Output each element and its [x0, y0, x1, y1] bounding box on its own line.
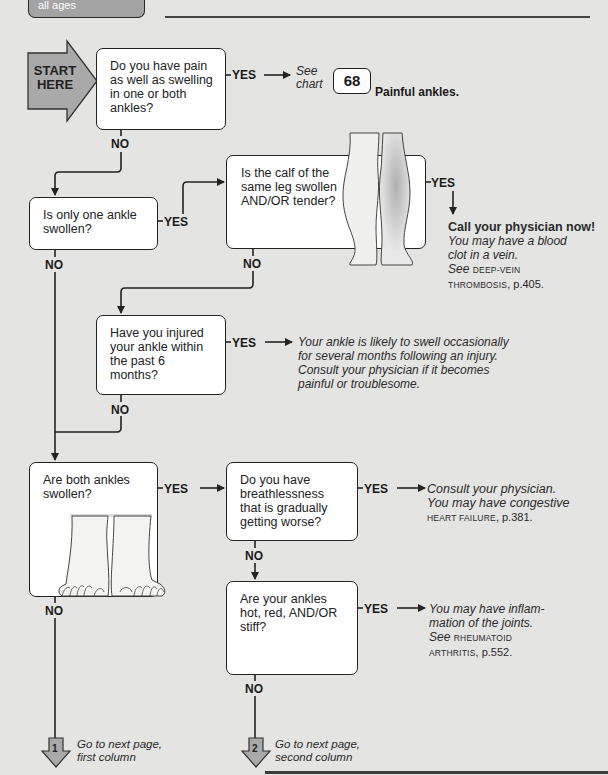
start-label-line1: START [31, 64, 79, 78]
start-label-line2: HERE [31, 78, 79, 92]
yes-label: YES [164, 482, 188, 496]
feet-illustration [56, 514, 168, 610]
no-label: NO [111, 137, 129, 151]
outcome-line: You may have a blood [448, 234, 608, 248]
chart-title-painful-ankles[interactable]: Painful ankles. [375, 85, 459, 99]
outcome-line: mation of the joints. [429, 616, 599, 630]
no-label: NO [45, 258, 63, 272]
outcome-line: clot in a vein. [448, 248, 608, 262]
question-box-pain-and-swelling[interactable]: Do you have pain as well as swelling in … [96, 48, 226, 130]
yes-label: YES [364, 602, 388, 616]
continue-2-link[interactable]: 2 [243, 737, 269, 769]
yes-label: YES [164, 215, 188, 229]
question-text: Have you injured your ankle within the p… [110, 326, 204, 382]
continuation-line: Go to next page, [275, 738, 360, 751]
continuation-1-text: Go to next page, first column [77, 738, 162, 764]
continuation-number: 2 [252, 743, 258, 754]
legs-calf-illustration [340, 133, 415, 268]
question-box-injured-ankle[interactable]: Have you injured your ankle within the p… [96, 315, 226, 395]
outcome-blood-clot: Call your physician now! You may have a … [448, 220, 608, 292]
page-ref: , p.552. [476, 646, 513, 658]
see-label: See [448, 262, 469, 276]
outcome-line: You may have inflam- [429, 602, 599, 616]
call-physician-now: Call your physician now! [448, 220, 608, 234]
question-box-one-ankle[interactable]: Is only one ankle swollen? [29, 197, 158, 250]
question-box-hot-red-stiff[interactable]: Are your ankles hot, red, AND/OR stiff? [226, 581, 358, 675]
question-text: Do you have breathlessness that is gradu… [240, 473, 328, 529]
continuation-line: second column [275, 751, 360, 764]
no-label: NO [111, 403, 129, 417]
chart-number: 68 [344, 72, 361, 89]
continue-1-link[interactable]: 1 [43, 737, 69, 769]
outcome-heart-failure: Consult your physician. You may have con… [427, 482, 607, 525]
outcome-line: painful or troublesome. [298, 377, 598, 391]
see-chart-text: See chart [296, 65, 323, 91]
reference-link-thrombosis[interactable]: THROMBOSIS [448, 280, 507, 290]
page-ref: , p.405. [507, 278, 544, 290]
continuation-2-text: Go to next page, second column [275, 738, 360, 764]
continuation-line: first column [77, 751, 162, 764]
no-label: NO [245, 682, 263, 696]
reference-link-deep-vein[interactable]: DEEP-VEIN [473, 265, 521, 275]
start-here-label: START HERE [31, 64, 79, 92]
outcome-line: Consult your physician if it becomes [298, 363, 598, 377]
page-ref: , p.381. [496, 511, 533, 523]
outcome-line: Consult your physician. [427, 482, 607, 496]
reference-link-heart-failure[interactable]: HEART FAILURE [427, 513, 496, 523]
outcome-line: for several months following an injury. [298, 349, 598, 363]
chart-68-link[interactable]: 68 [333, 68, 371, 94]
reference-link-rheumatoid[interactable]: RHEUMATOID [454, 633, 512, 643]
chart-label: chart [296, 78, 323, 91]
no-label: NO [45, 604, 63, 618]
continuation-line: Go to next page, [77, 738, 162, 751]
yes-label: YES [232, 68, 256, 82]
outcome-rheumatoid-arthritis: You may have inflam- mation of the joint… [429, 602, 599, 660]
yes-label: YES [364, 482, 388, 496]
continuation-number: 1 [52, 743, 58, 754]
no-label: NO [243, 257, 261, 271]
yes-label: YES [232, 336, 256, 350]
outcome-line: You may have congestive [427, 496, 607, 510]
question-text: Are your ankles hot, red, AND/OR stiff? [240, 592, 337, 634]
question-box-breathlessness[interactable]: Do you have breathlessness that is gradu… [226, 462, 358, 541]
outcome-line: Your ankle is likely to swell occasional… [298, 335, 598, 349]
footer-rule [265, 771, 608, 774]
outcome-injury-swelling: Your ankle is likely to swell occasional… [298, 335, 598, 391]
yes-label: YES [431, 176, 455, 190]
question-text: Do you have pain as well as swelling in … [110, 59, 213, 115]
question-text: Are both ankles swollen? [43, 473, 130, 501]
no-label: NO [245, 549, 263, 563]
question-text: Is only one ankle swollen? [43, 208, 137, 236]
see-label: See [429, 630, 450, 644]
reference-link-arthritis[interactable]: ARTHRITIS [429, 648, 476, 658]
